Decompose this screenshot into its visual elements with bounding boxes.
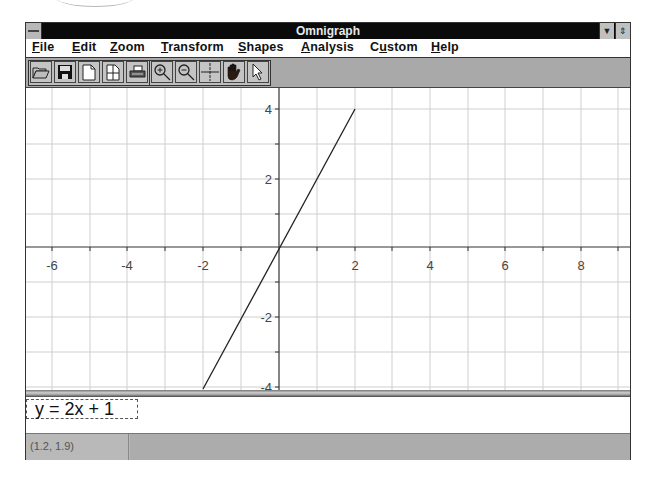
zoom-out-button[interactable] bbox=[175, 61, 197, 83]
menu-file-mnemonic: F bbox=[32, 40, 40, 54]
window-title: Omnigraph bbox=[26, 24, 630, 38]
menu-shapes[interactable]: Shapes bbox=[238, 40, 284, 54]
toolbar bbox=[26, 58, 630, 88]
view-tool-group bbox=[149, 60, 271, 86]
new-page-icon bbox=[82, 64, 96, 81]
zoom-in-button[interactable] bbox=[151, 61, 173, 83]
menu-custom-mnemonic: u bbox=[379, 40, 387, 54]
y-tick-label: 2 bbox=[265, 172, 272, 187]
status-bar: (1.2, 1.9) bbox=[26, 433, 630, 460]
title-bar: Omnigraph ▼ ⇕ bbox=[26, 23, 630, 39]
menu-custom[interactable]: Custom bbox=[370, 40, 418, 54]
menu-zoom-mnemonic: Z bbox=[110, 40, 118, 54]
minimize-button[interactable]: ▼ bbox=[599, 23, 614, 39]
zoom-in-icon bbox=[153, 63, 171, 81]
save-disk-icon bbox=[57, 64, 73, 80]
status-panel bbox=[130, 434, 630, 460]
minimize-icon: ▼ bbox=[603, 26, 612, 36]
pan-hand-icon bbox=[225, 63, 243, 81]
x-tick-label: 4 bbox=[426, 258, 433, 273]
pan-button[interactable] bbox=[223, 61, 245, 83]
menu-zoom[interactable]: Zoom bbox=[110, 40, 145, 54]
select-button[interactable] bbox=[247, 61, 269, 83]
menu-edit[interactable]: Edit bbox=[72, 40, 96, 54]
menu-analysis-rest: nalysis bbox=[310, 40, 354, 54]
grid-lines bbox=[26, 88, 630, 390]
expression-field[interactable]: y = 2x + 1 bbox=[26, 399, 138, 419]
y-tick-label: 4 bbox=[265, 102, 272, 117]
open-button[interactable] bbox=[30, 61, 52, 83]
menu-bar: File Edit Zoom Transform Shapes Analysis… bbox=[26, 39, 630, 58]
y-tick-label: -4 bbox=[260, 380, 272, 390]
x-tick-label: 2 bbox=[351, 258, 358, 273]
menu-help-mnemonic: H bbox=[431, 40, 440, 54]
open-folder-icon bbox=[32, 65, 50, 79]
menu-transform-rest: ransform bbox=[168, 40, 224, 54]
cursor-coordinates: (1.2, 1.9) bbox=[26, 434, 129, 460]
axes bbox=[26, 88, 630, 390]
menu-edit-mnemonic: E bbox=[72, 40, 81, 54]
pane-splitter[interactable] bbox=[26, 390, 630, 397]
pointer-arrow-icon bbox=[250, 63, 266, 81]
menu-help[interactable]: Help bbox=[431, 40, 459, 54]
menu-help-rest: elp bbox=[440, 40, 459, 54]
grid-page-icon bbox=[106, 64, 120, 81]
new-button[interactable] bbox=[78, 61, 100, 83]
file-tool-group bbox=[28, 60, 150, 86]
menu-shapes-rest: hapes bbox=[247, 40, 284, 54]
menu-analysis-mnemonic: A bbox=[301, 40, 310, 54]
graph-plot: -6 -4 -2 2 4 6 8 4 2 -2 -4 bbox=[26, 88, 630, 390]
restore-button[interactable]: ⇕ bbox=[615, 23, 630, 39]
print-button[interactable] bbox=[126, 61, 148, 83]
print-icon bbox=[129, 65, 146, 79]
menu-transform[interactable]: Transform bbox=[161, 40, 224, 54]
graph-canvas[interactable]: -6 -4 -2 2 4 6 8 4 2 -2 -4 bbox=[26, 88, 630, 390]
axes-crosshair-icon bbox=[200, 62, 220, 82]
menu-custom-prefix: C bbox=[370, 40, 379, 54]
menu-shapes-mnemonic: S bbox=[238, 40, 247, 54]
y-tick-label: -2 bbox=[260, 310, 272, 325]
zoom-out-icon bbox=[177, 63, 195, 81]
menu-file-rest: ile bbox=[40, 40, 55, 54]
decorative-arc bbox=[55, 0, 135, 7]
restore-icon: ⇕ bbox=[619, 26, 627, 36]
x-tick-label: 8 bbox=[577, 258, 584, 273]
x-tick-label: -2 bbox=[197, 258, 209, 273]
x-tick-label: -6 bbox=[46, 258, 58, 273]
grid-page-button[interactable] bbox=[102, 61, 124, 83]
menu-edit-rest: dit bbox=[81, 40, 97, 54]
axes-button[interactable] bbox=[199, 61, 221, 83]
menu-custom-rest: stom bbox=[387, 40, 418, 54]
menu-analysis[interactable]: Analysis bbox=[301, 40, 354, 54]
expression-editor[interactable]: y = 2x + 1 bbox=[26, 397, 630, 433]
save-button[interactable] bbox=[54, 61, 76, 83]
x-tick-label: -4 bbox=[121, 258, 133, 273]
menu-file[interactable]: File bbox=[32, 40, 54, 54]
menu-zoom-rest: oom bbox=[118, 40, 145, 54]
omnigraph-window: Omnigraph ▼ ⇕ File Edit Zoom Transform S… bbox=[25, 22, 631, 460]
x-tick-label: 6 bbox=[501, 258, 508, 273]
